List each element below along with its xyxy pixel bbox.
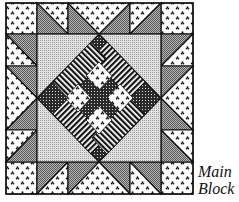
caption-block: Block xyxy=(198,180,234,197)
top-flying-goose xyxy=(68,3,130,34)
left-upper-half-square xyxy=(6,34,37,66)
left-flying-goose xyxy=(6,66,37,130)
corner-bottom-right xyxy=(161,162,193,194)
right-upper-half-square xyxy=(161,34,193,66)
top-right-half-square xyxy=(130,3,161,34)
corner-bottom-left xyxy=(6,162,37,194)
right-lower-half-square xyxy=(161,130,193,162)
bottom-flying-goose xyxy=(68,162,130,194)
bottom-left-half-square xyxy=(37,162,68,194)
right-flying-goose xyxy=(161,66,193,130)
left-lower-half-square xyxy=(6,130,37,162)
corner-top-left xyxy=(6,3,37,34)
bottom-right-half-square xyxy=(130,162,161,194)
caption-main: Main xyxy=(198,163,232,180)
corner-top-right xyxy=(161,3,193,34)
top-left-half-square xyxy=(37,3,68,34)
